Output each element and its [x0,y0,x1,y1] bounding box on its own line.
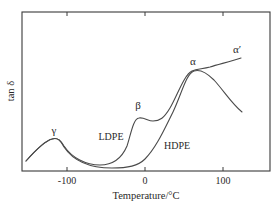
ldpe-label: LDPE [99,131,124,142]
alpha-prime-label: α′ [233,43,241,55]
hdpe-label: HDPE [164,140,190,151]
hdpe-curve [26,70,242,168]
tan-delta-chart: -100 0 100 Temperature/°C tan δ γ β α α′… [0,0,280,212]
y-axis-label: tan δ [5,81,16,101]
beta-label: β [135,99,141,111]
plot-frame [22,12,270,171]
x-tick-label-100: 100 [216,175,231,186]
x-axis-ticks-top [67,12,223,16]
ldpe-curve [26,58,241,165]
alpha-label: α [190,55,196,67]
x-axis-label: Temperature/°C [112,190,179,201]
gamma-label: γ [51,124,57,136]
x-axis-ticks-bottom [67,167,223,171]
x-tick-label-neg100: -100 [58,175,76,186]
x-tick-label-0: 0 [143,175,148,186]
